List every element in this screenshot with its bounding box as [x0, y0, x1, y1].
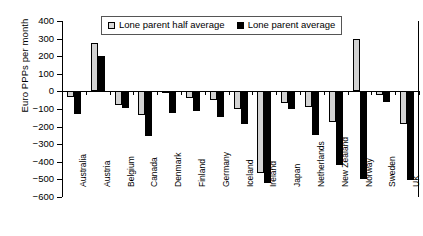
y-axis-tick: 400	[57, 21, 62, 22]
x-axis-tick	[371, 91, 372, 95]
bar	[162, 91, 169, 93]
x-axis-label: Denmark	[173, 153, 183, 187]
bar	[122, 91, 129, 108]
bar	[383, 91, 390, 102]
x-axis-label: Iceland	[245, 160, 255, 187]
bar	[257, 91, 264, 173]
bar	[74, 91, 81, 114]
x-axis-label: Japan	[292, 164, 302, 187]
y-axis-tick: −400	[57, 162, 62, 163]
y-axis-tick-label: −200	[33, 121, 54, 132]
x-axis-tick	[395, 91, 396, 95]
bar	[186, 91, 193, 97]
bar	[138, 91, 145, 115]
y-axis-tick-label: −600	[33, 191, 54, 202]
bar	[288, 91, 295, 109]
y-axis-tick: −500	[57, 179, 62, 180]
y-axis-line	[62, 21, 63, 197]
bar-chart-figure: Euro PPPs per month 4003002001000−100−20…	[0, 0, 423, 236]
bar	[305, 91, 312, 107]
y-axis-tick-label: 400	[38, 15, 54, 26]
y-axis-tick: −600	[57, 197, 62, 198]
y-axis-tick-label: −500	[33, 173, 54, 184]
bar	[400, 91, 407, 124]
x-axis-tick	[348, 91, 349, 95]
y-axis-tick-label: −100	[33, 103, 54, 114]
x-axis-label: Germany	[221, 152, 231, 187]
chart-legend: Lone parent half average Lone parent ave…	[101, 16, 342, 35]
x-axis-tick	[62, 91, 63, 95]
y-axis-tick: 300	[57, 39, 62, 40]
x-axis-label: Canada	[149, 157, 159, 187]
y-axis-title: Euro PPPs per month	[19, 0, 30, 136]
x-axis-tick	[300, 91, 301, 95]
legend-swatch-light-icon	[108, 22, 115, 29]
y-axis-tick-label: −400	[33, 156, 54, 167]
legend-item-lone-parent-half-average: Lone parent half average	[108, 19, 225, 31]
y-axis-tick-label: 0	[49, 85, 54, 96]
legend-swatch-dark-icon	[237, 22, 244, 29]
x-axis-tick	[205, 91, 206, 95]
x-axis-label: Norway	[364, 158, 374, 187]
x-axis-tick	[276, 91, 277, 95]
y-axis-tick-label: 200	[38, 50, 54, 61]
bar	[234, 91, 241, 109]
y-axis-tick: 100	[57, 74, 62, 75]
y-axis-tick: 200	[57, 56, 62, 57]
x-axis-tick	[229, 91, 230, 95]
bar	[217, 91, 224, 117]
legend-label: Lone parent average	[248, 19, 336, 31]
x-axis-label: Finland	[197, 159, 207, 187]
bar	[169, 91, 176, 112]
bar	[329, 91, 336, 122]
x-axis-tick	[110, 91, 111, 95]
bar	[115, 91, 122, 104]
bar	[376, 91, 383, 95]
y-axis-tick: −300	[57, 144, 62, 145]
y-axis-tick-label: −300	[33, 138, 54, 149]
legend-label: Lone parent half average	[119, 19, 225, 31]
bar	[281, 91, 288, 102]
x-axis-label: Netherlands	[316, 141, 326, 187]
y-axis-tick: −100	[57, 109, 62, 110]
x-axis-label: Belgium	[126, 156, 136, 187]
x-axis-label: Australia	[78, 154, 88, 187]
bar	[98, 56, 105, 91]
x-axis-tick	[324, 91, 325, 95]
y-axis-tick: −200	[57, 127, 62, 128]
bar	[407, 91, 414, 180]
x-axis-tick	[86, 91, 87, 95]
x-axis-label: UK	[411, 175, 421, 187]
x-axis-tick	[157, 91, 158, 95]
x-axis-label: Sweden	[387, 156, 397, 187]
bar	[312, 91, 319, 135]
bar	[91, 43, 98, 91]
x-axis-label: New Zealand	[340, 137, 350, 187]
x-axis-tick	[419, 91, 420, 95]
bar	[353, 39, 360, 91]
bar	[67, 91, 74, 96]
x-axis-tick	[133, 91, 134, 95]
bar-group	[400, 21, 414, 197]
y-axis-tick-label: 300	[38, 33, 54, 44]
bar	[210, 91, 217, 100]
x-axis-tick	[181, 91, 182, 95]
bar	[193, 91, 200, 110]
y-axis-tick-label: 100	[38, 68, 54, 79]
bar	[241, 91, 248, 124]
legend-item-lone-parent-average: Lone parent average	[237, 19, 336, 31]
bar	[145, 91, 152, 136]
x-axis-label: Ireland	[268, 161, 278, 187]
x-axis-tick	[252, 91, 253, 95]
x-axis-label: Austria	[102, 161, 112, 187]
plot-right-border	[418, 21, 419, 197]
